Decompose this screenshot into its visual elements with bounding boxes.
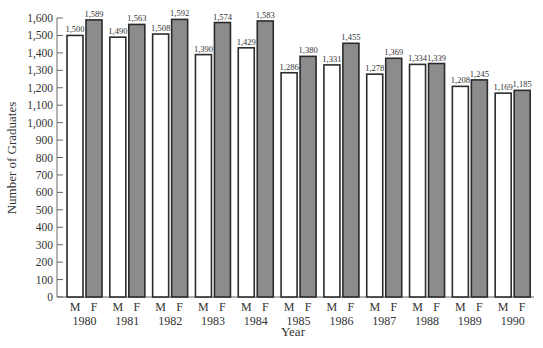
bar-m-1989: [452, 86, 468, 297]
y-tick-label: 800: [36, 152, 54, 164]
bar-sublabel: M: [498, 300, 509, 314]
bar-m-1980: [67, 35, 83, 297]
x-category-label: 1989: [458, 314, 482, 328]
x-category-label: 1980: [73, 314, 97, 328]
y-tick-label: 200: [36, 256, 54, 268]
bar-sublabel: M: [369, 300, 380, 314]
bar-f-1981: [129, 24, 145, 297]
bar-sublabel: M: [241, 300, 252, 314]
bar-value-label: 1,490: [108, 26, 127, 36]
y-tick-label: 0: [47, 291, 53, 303]
x-category-label: 1982: [158, 314, 182, 328]
bar-value-label: 1,508: [151, 23, 170, 33]
y-tick-label: 900: [36, 134, 54, 146]
x-category-label: 1988: [415, 314, 439, 328]
bar-group-1982: 1,5081,592: [151, 8, 189, 297]
y-tick-label: 300: [36, 239, 54, 251]
x-axis-label: Year: [281, 324, 306, 339]
bar-sublabel: F: [348, 300, 355, 314]
bar-group-1983: 1,3901,574: [194, 12, 233, 297]
bar-value-label: 1,592: [170, 8, 189, 18]
y-tick-label: 1,600: [27, 12, 53, 25]
bar-chart: 01002003004005006007008009001,0001,1001,…: [0, 0, 543, 348]
bar-value-label: 1,185: [513, 79, 532, 89]
bar-sublabel: M: [155, 300, 166, 314]
bar-sublabel: M: [284, 300, 295, 314]
x-category-label: 1990: [501, 314, 525, 328]
x-category-label: 1986: [329, 314, 353, 328]
y-tick-label: 100: [36, 274, 54, 286]
bar-f-1984: [257, 21, 273, 297]
bar-sublabel: F: [433, 300, 440, 314]
bar-m-1990: [495, 93, 511, 297]
bar-value-label: 1,429: [237, 37, 256, 47]
bar-value-label: 1,380: [299, 45, 318, 55]
bar-sublabel: M: [327, 300, 338, 314]
bar-sublabel: F: [390, 300, 397, 314]
bar-f-1982: [172, 19, 188, 297]
y-tick-label: 1,500: [27, 29, 53, 42]
y-axis-label: Number of Graduates: [4, 102, 19, 215]
y-tick-label: 600: [36, 186, 54, 198]
bar-f-1983: [214, 23, 230, 297]
bar-value-label: 1,208: [451, 75, 470, 85]
bar-value-label: 1,334: [408, 53, 428, 63]
y-tick-label: 1,100: [27, 99, 53, 112]
y-tick-label: 1,400: [27, 47, 53, 60]
bar-m-1983: [195, 55, 211, 297]
bar-value-label: 1,589: [84, 9, 103, 19]
x-category-label: 1987: [372, 314, 396, 328]
bar-f-1987: [386, 58, 402, 297]
bar-m-1986: [324, 65, 340, 297]
bar-group-1990: 1,1691,185: [494, 79, 532, 297]
bar-value-label: 1,563: [127, 13, 146, 23]
bar-m-1988: [410, 64, 426, 297]
bar-group-1984: 1,4291,583: [237, 10, 275, 297]
bar-m-1987: [367, 74, 383, 297]
bar-sublabel: F: [176, 300, 183, 314]
x-category-label: 1983: [201, 314, 225, 328]
bar-f-1990: [514, 90, 530, 297]
bar-sublabel: M: [455, 300, 466, 314]
bar-value-label: 1,500: [65, 24, 84, 34]
x-category-label: 1984: [244, 314, 268, 328]
y-tick-label: 500: [36, 204, 54, 216]
bar-group-1985: 1,2861,380: [280, 45, 318, 297]
bar-group-1980: 1,5001,589: [65, 9, 103, 297]
bar-f-1980: [86, 20, 102, 297]
bar-value-label: 1,169: [494, 82, 513, 92]
bar-f-1986: [343, 43, 359, 297]
x-category-label: 1981: [115, 314, 139, 328]
bar-value-label: 1,278: [365, 63, 384, 73]
bar-f-1989: [471, 80, 487, 297]
bar-group-1988: 1,3341,339: [408, 53, 446, 297]
bar-sublabel: F: [133, 300, 140, 314]
bar-sublabel: F: [91, 300, 98, 314]
bar-value-label: 1,286: [280, 62, 299, 72]
bar-sublabel: F: [219, 300, 226, 314]
bar-value-label: 1,390: [194, 44, 213, 54]
y-tick-label: 400: [36, 221, 54, 233]
bar-value-label: 1,369: [384, 47, 403, 57]
bar-value-label: 1,331: [322, 54, 341, 64]
y-tick-label: 1,300: [27, 64, 53, 77]
bar-value-label: 1,574: [213, 12, 233, 22]
bar-f-1985: [300, 56, 316, 297]
bar-m-1984: [238, 48, 254, 297]
chart-canvas: 01002003004005006007008009001,0001,1001,…: [0, 0, 543, 348]
bar-value-label: 1,245: [470, 69, 489, 79]
bar-sublabel: F: [305, 300, 312, 314]
bar-sublabel: M: [412, 300, 423, 314]
y-tick-label: 1,000: [27, 117, 53, 130]
y-tick-label: 700: [36, 169, 54, 181]
bar-f-1988: [429, 64, 445, 297]
bar-m-1985: [281, 73, 297, 297]
bar-value-label: 1,583: [256, 10, 275, 20]
bar-group-1987: 1,2781,369: [365, 47, 403, 297]
bar-group-1989: 1,2081,245: [451, 69, 489, 297]
bar-sublabel: M: [112, 300, 123, 314]
bar-sublabel: F: [262, 300, 269, 314]
bar-sublabel: F: [476, 300, 483, 314]
bar-group-1981: 1,4901,563: [108, 13, 146, 297]
bar-m-1981: [110, 37, 126, 297]
